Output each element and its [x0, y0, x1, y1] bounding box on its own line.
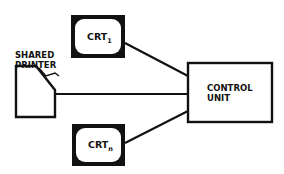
control-unit-label-line2: UNIT	[207, 93, 230, 103]
control-unit: CONTROL UNIT	[188, 63, 272, 122]
edge-crtn-control	[125, 111, 188, 143]
crt1-terminal: CRT1	[71, 15, 125, 58]
printer-body	[16, 66, 55, 117]
printer-label-line1: SHARED	[15, 50, 54, 60]
shared-printer: SHARED PRINTER	[15, 50, 59, 117]
diagram-canvas: CRT1 CRTn SHARED PRINTER CONTROL UNIT	[0, 0, 284, 174]
crtn-terminal: CRTn	[72, 124, 125, 166]
control-unit-label-line1: CONTROL	[207, 83, 253, 93]
edge-crt1-control	[125, 43, 188, 76]
